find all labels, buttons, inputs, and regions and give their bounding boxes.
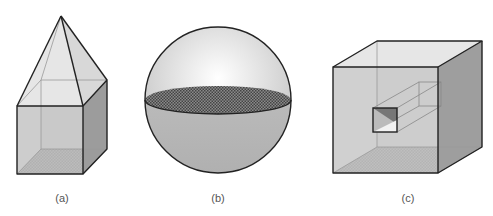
figure-canvas bbox=[0, 0, 493, 216]
figure-b-sphere bbox=[145, 27, 291, 173]
figure-c-cube-tunnel bbox=[333, 41, 482, 173]
figure-b-label: (b) bbox=[211, 192, 224, 204]
tunnel-opening bbox=[373, 108, 397, 132]
figure-a-label: (a) bbox=[55, 192, 68, 204]
figure-c-label: (c) bbox=[402, 192, 415, 204]
figure-a-prism-pyramid bbox=[17, 16, 107, 174]
